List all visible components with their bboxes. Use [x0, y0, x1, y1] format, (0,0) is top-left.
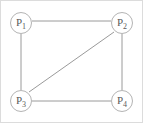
node-p2[interactable]: [112, 13, 133, 34]
node-p4[interactable]: [112, 91, 133, 112]
graph-diagram: P1 P2 P3 P4: [0, 0, 143, 123]
node-p3[interactable]: [11, 91, 32, 112]
node-p1[interactable]: [11, 13, 32, 34]
graph-canvas: [0, 0, 143, 123]
